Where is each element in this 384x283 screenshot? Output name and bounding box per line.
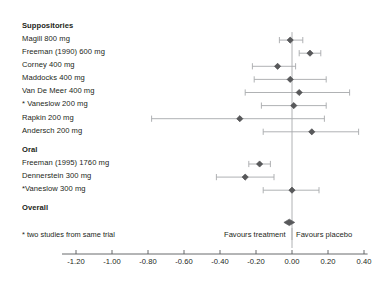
group-header-oral: Oral	[22, 146, 37, 154]
study-label-0-0: Magill 800 mg	[22, 35, 70, 43]
study-marker-0-4	[245, 89, 349, 95]
study-label-0-5: * Vaneslow 200 mg	[22, 100, 88, 108]
study-label-1-1: Dennerstein 300 mg	[22, 172, 91, 180]
study-label-0-1: Freeman (1990) 600 mg	[22, 48, 105, 56]
group-header-overall: Overall	[22, 204, 48, 212]
study-marker-0-0	[279, 37, 302, 43]
x-tick-label-6: 0.00	[285, 257, 300, 266]
study-label-1-0: Freeman (1995) 1760 mg	[22, 159, 109, 167]
x-tick-label-4: -0.40	[211, 257, 228, 266]
study-marker-0-2	[252, 63, 295, 69]
study-marker-0-7	[263, 129, 358, 135]
study-label-1-2: *Vaneslow 300 mg	[22, 185, 86, 193]
study-label-0-2: Corney 400 mg	[22, 61, 75, 69]
study-label-0-3: Maddocks 400 mg	[22, 74, 85, 82]
footnote-text: * two studies from same trial	[22, 230, 115, 239]
study-marker-0-3	[254, 76, 326, 82]
favours-treatment-label: Favours treatment	[224, 230, 286, 239]
x-tick-label-1: -1.00	[103, 257, 120, 266]
study-label-0-6: Rapkin 200 mg	[22, 114, 74, 122]
favours-placebo-label: Favours placebo	[296, 230, 352, 239]
x-tick-label-7: 0.20	[321, 257, 336, 266]
x-tick-label-3: -0.60	[175, 257, 192, 266]
study-marker-0-5	[261, 103, 326, 109]
x-tick-label-0: -1.20	[67, 257, 84, 266]
x-tick-label-8: 0.40	[357, 257, 372, 266]
study-label-0-4: Van De Meer 400 mg	[22, 87, 95, 95]
study-label-0-7: Andersch 200 mg	[22, 127, 82, 135]
study-marker-1-2	[263, 187, 319, 193]
overall-diamond-marker	[284, 219, 295, 225]
study-marker-0-6	[152, 116, 325, 122]
group-header-suppositories: Suppositories	[22, 22, 73, 30]
study-marker-1-0	[249, 161, 271, 167]
x-tick-label-2: -0.80	[139, 257, 156, 266]
study-marker-0-1	[299, 50, 321, 56]
study-marker-1-1	[216, 174, 274, 180]
x-tick-label-5: -0.20	[247, 257, 264, 266]
